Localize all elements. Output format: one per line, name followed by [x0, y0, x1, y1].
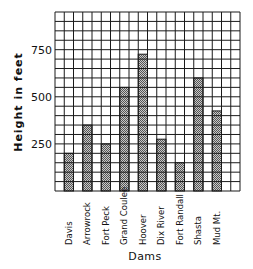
x-tick-label: Davis	[64, 221, 74, 245]
x-tick-label: Shasta	[193, 216, 203, 245]
bars-group	[64, 54, 221, 191]
x-tick-label: Fort Peck	[101, 206, 111, 245]
x-tick-label: Fort Randall	[175, 194, 185, 245]
x-tick-label: Mud Mt.	[212, 211, 222, 245]
x-axis-ticks: DavisArrowrockFort PeckGrand CouleeHoove…	[64, 187, 222, 245]
x-tick-label: Arrowrock	[82, 202, 92, 245]
bar-grand-coulee	[120, 87, 129, 191]
bar-fort-peck	[101, 144, 110, 191]
y-tick-label: 750	[31, 44, 52, 57]
grid	[55, 12, 240, 191]
y-tick-label: 500	[31, 91, 52, 104]
bar-fort-randall	[175, 163, 184, 191]
bar-dix-river	[157, 139, 166, 191]
y-tick-label: 250	[31, 138, 52, 151]
x-tick-label: Grand Coulee	[119, 187, 129, 245]
bar-hoover	[138, 54, 147, 191]
y-axis-ticks: 250500750	[31, 44, 52, 151]
bar-mud-mt	[212, 111, 221, 191]
x-tick-label: Hoover	[138, 214, 148, 245]
bar-chart: 250500750 DavisArrowrockFort PeckGrand C…	[0, 0, 253, 269]
x-tick-label: Dix River	[156, 206, 166, 245]
x-axis-label: Dams	[128, 250, 162, 263]
y-axis-label: Height in feet	[12, 52, 25, 152]
